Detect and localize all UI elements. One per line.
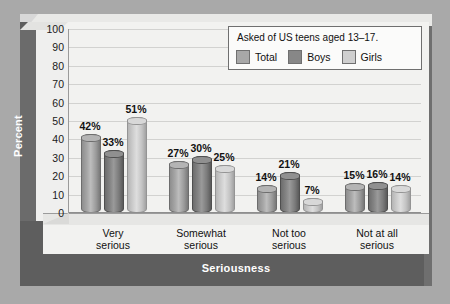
bar-value-label: 42%: [76, 121, 104, 132]
plot-floor: [43, 213, 429, 225]
bar-girls-0: [127, 117, 147, 213]
category-label-line: Not at all: [321, 227, 433, 239]
gridline-50: [69, 121, 421, 122]
y-tick-70: 70: [36, 79, 64, 89]
bar-boys-0: [104, 150, 124, 213]
bar-cap: [257, 185, 277, 193]
chart-legend: Asked of US teens aged 13–17. TotalBoysG…: [228, 26, 422, 70]
bar-total-3: [345, 183, 365, 213]
bar-cap: [391, 185, 411, 193]
bar-cap: [104, 150, 124, 158]
bar-cap: [127, 117, 147, 125]
y-tick-20: 20: [36, 171, 64, 181]
legend-label: Boys: [307, 51, 330, 63]
bar-value-label: 14%: [252, 172, 280, 183]
legend-label: Girls: [361, 51, 383, 63]
y-tick-80: 80: [36, 61, 64, 71]
bar-value-label: 14%: [386, 172, 414, 183]
bar-cap: [345, 183, 365, 191]
legend-note: Asked of US teens aged 13–17.: [237, 32, 378, 43]
bar-boys-2: [280, 172, 300, 213]
bar-total-2: [257, 185, 277, 213]
bar-value-label: 51%: [122, 104, 150, 115]
legend-entries: TotalBoysGirls: [236, 50, 382, 64]
gridline-70: [69, 84, 421, 85]
legend-label: Total: [255, 51, 277, 63]
bar-cap: [368, 182, 388, 190]
legend-item-boys[interactable]: Boys: [288, 50, 330, 64]
bar-cap: [192, 156, 212, 164]
bar-girls-1: [215, 165, 235, 213]
bar-value-label: 7%: [298, 185, 326, 196]
bar-cap: [303, 198, 323, 206]
legend-item-girls[interactable]: Girls: [342, 50, 383, 64]
y-tick-0: 0: [36, 208, 64, 218]
chart-container: 1009080706050403020100 42%33%51%27%30%25…: [0, 0, 450, 304]
bar-cap: [215, 165, 235, 173]
bar-girls-2: [303, 198, 323, 213]
x-axis-title: Seriousness: [43, 262, 429, 274]
bar-girls-3: [391, 185, 411, 213]
y-tick-90: 90: [36, 42, 64, 52]
y-tick-60: 60: [36, 98, 64, 108]
bar-value-label: 25%: [210, 152, 238, 163]
y-tick-30: 30: [36, 153, 64, 163]
y-tick-40: 40: [36, 134, 64, 144]
y-tick-10: 10: [36, 190, 64, 200]
legend-swatch-boys: [288, 50, 302, 64]
legend-swatch-girls: [342, 50, 356, 64]
y-tick-50: 50: [36, 116, 64, 126]
bar-cap: [280, 172, 300, 180]
y-tick-100: 100: [36, 24, 64, 34]
category-label-line: serious: [321, 239, 433, 251]
bar-total-1: [169, 161, 189, 213]
category-label-3: Not at allserious: [321, 227, 433, 251]
bar-total-0: [81, 134, 101, 213]
bar-value-label: 33%: [99, 137, 127, 148]
legend-swatch-total: [236, 50, 250, 64]
bar-boys-3: [368, 182, 388, 213]
bar-boys-1: [192, 156, 212, 213]
bar-value-label: 21%: [275, 159, 303, 170]
bar-cap: [169, 161, 189, 169]
y-axis-title: Percent: [12, 106, 24, 166]
legend-item-total[interactable]: Total: [236, 50, 277, 64]
bar-cap: [81, 134, 101, 142]
x-axis-baseline: [69, 212, 421, 213]
